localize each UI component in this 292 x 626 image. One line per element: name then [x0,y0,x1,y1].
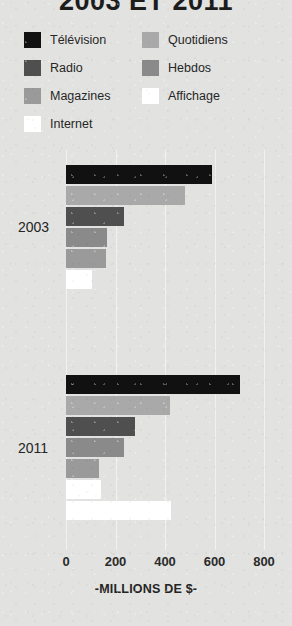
legend-item-label: Magazines [50,89,110,103]
legend-swatch-icon [142,88,159,104]
legend-item-radio: Radio [24,60,142,76]
legend-swatch-icon [24,32,41,48]
x-tick-label: 200 [105,554,127,569]
legend-swatch-icon [142,60,159,76]
bar-group-2011: 2011 [0,375,292,522]
legend-swatch-icon [24,116,41,132]
bar-2011-t-l-vision [66,375,240,394]
bar-2003-radio [66,207,124,226]
bar-2003-affichage [66,270,92,289]
legend-item-label: Hebdos [168,61,211,75]
legend-item-label: Quotidiens [168,33,228,47]
legend-swatch-icon [24,60,41,76]
legend-item-magazines: Magazines [24,88,142,104]
bar-group-2003: 2003 [0,165,292,291]
legend-item-label: Affichage [168,89,220,103]
legend-item-internet: Internet [24,116,142,132]
bar-2003-magazines [66,249,106,268]
x-tick-label: 600 [204,554,226,569]
bar-2003-t-l-vision [66,165,212,184]
chart-title: 2003 ET 2011 [0,0,292,17]
legend-swatch-icon [24,88,41,104]
bar-2011-affichage [66,480,101,499]
legend-item-label: Internet [50,117,92,131]
bar-2003-hebdos [66,228,107,247]
bar-2011-radio [66,417,135,436]
legend-item-affichage: Affichage [142,88,267,104]
x-tick-label: 0 [62,554,69,569]
x-axis-caption: -MILLIONS DE $- [0,582,292,596]
group-label-2011: 2011 [18,440,48,456]
x-tick-label: 800 [253,554,275,569]
bar-2011-internet [66,501,171,520]
chart-legend: TélévisionQuotidiensRadioHebdosMagazines… [24,26,274,138]
bar-2003-quotidiens [66,186,185,205]
bars-container [66,165,212,291]
bar-2011-quotidiens [66,396,170,415]
x-tick-label: 400 [154,554,176,569]
bar-2011-hebdos [66,438,124,457]
legend-item-quotidiens: Quotidiens [142,32,267,48]
group-label-2003: 2003 [18,219,49,235]
legend-item-t-l-vision: Télévision [24,32,142,48]
x-axis-ticks: 0200400600800 [0,554,292,574]
chart-plot-area: 2003 2011 0200400600800 -MILLIONS DE $- [0,150,292,626]
legend-item-label: Télévision [50,33,106,47]
legend-swatch-icon [142,32,159,48]
legend-item-label: Radio [50,61,83,75]
bar-2011-magazines [66,459,99,478]
legend-item-hebdos: Hebdos [142,60,267,76]
bars-container [66,375,240,522]
